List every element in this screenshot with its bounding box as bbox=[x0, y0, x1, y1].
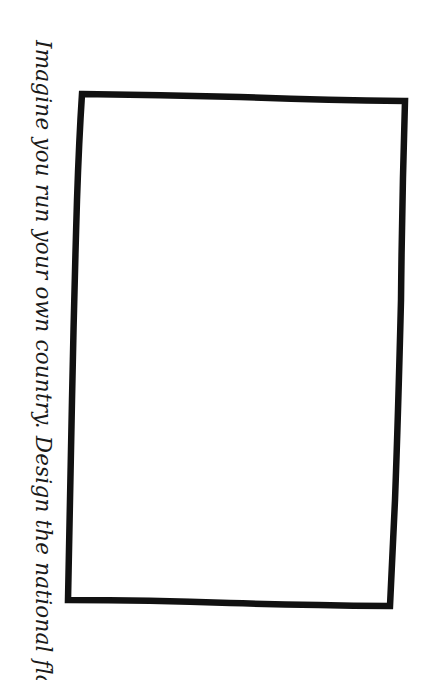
flag-drawing-area[interactable] bbox=[0, 0, 421, 680]
flag-box-fill bbox=[68, 93, 405, 606]
